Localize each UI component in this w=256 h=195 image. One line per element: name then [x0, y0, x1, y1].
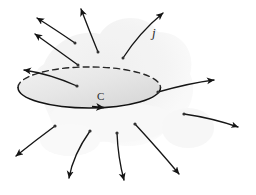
arrow-tail-dot	[53, 124, 56, 127]
boundary-curve-label: C	[97, 90, 104, 102]
arrow-tail-dot	[75, 84, 78, 87]
diagram-canvas: j C	[0, 0, 256, 195]
arrow-tail-dot	[97, 51, 100, 54]
arrow-tail-dot	[182, 112, 185, 115]
arrow-tail-dot	[156, 90, 159, 93]
arrow-tail-dot	[88, 129, 91, 132]
arrow-tail-dot	[77, 64, 80, 67]
diagram-svg: j C	[0, 0, 256, 195]
curve-orientation-arrowhead	[92, 107, 104, 108]
arrow-tail-dot	[122, 57, 125, 60]
arrow-tail-dot	[74, 42, 77, 45]
arrow-tail-dot	[133, 122, 136, 125]
arrow-tail-dot	[115, 131, 118, 134]
